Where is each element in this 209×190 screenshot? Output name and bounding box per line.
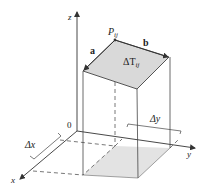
x-axis-label: x [10, 175, 15, 185]
vector-a-label: a [90, 45, 95, 56]
projected-rectangle-shadow [83, 146, 170, 178]
delta-y-bracket [127, 124, 181, 134]
point-p-label: Pij [107, 26, 118, 39]
delta-x-label: Δx [24, 139, 36, 150]
y-axis-label: y [186, 149, 191, 159]
y-axis [77, 131, 195, 148]
z-axis-label: z [67, 12, 72, 22]
vector-b-label: b [143, 37, 149, 48]
origin-label: 0 [67, 120, 72, 130]
delta-y-label: Δy [149, 113, 161, 124]
tangent-plane-diagram: z x y 0 Pij a b ΔTij Δx Δy [0, 0, 209, 190]
